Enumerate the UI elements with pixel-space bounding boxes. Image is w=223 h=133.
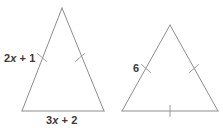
right-leg-value: 6 (133, 62, 139, 74)
base-constant: 2 (71, 114, 77, 126)
left-triangle-right-leg (62, 8, 104, 111)
base-operator: + (62, 114, 69, 126)
left-triangle-base-label: 3x + 2 (46, 115, 78, 126)
base-variable: x (52, 114, 58, 126)
right-triangle-left-leg-tick (142, 65, 151, 73)
geometry-figure: 2x + 1 3x + 2 6 (0, 0, 223, 133)
right-triangle-right-leg-tick (190, 65, 199, 73)
left-leg-constant: 1 (29, 52, 35, 64)
left-triangle-leg-label: 2x + 1 (4, 53, 36, 64)
left-leg-variable: x (10, 52, 16, 64)
left-leg-operator: + (20, 52, 27, 64)
right-triangle-leg-label: 6 (133, 63, 139, 74)
triangles-canvas (0, 0, 223, 133)
